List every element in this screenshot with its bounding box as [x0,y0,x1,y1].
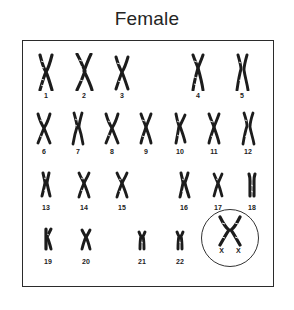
chromosome-pair-16: 16 [171,165,197,212]
chromosome-label: 12 [235,147,261,156]
sex-chromosome-group: X X [201,209,263,271]
chromosome-label: 14 [71,203,97,212]
chromosome-icon [201,109,227,147]
chromosome-pair-17: 17 [205,165,231,212]
chromosome-pair-18: 18 [239,165,265,212]
chromosome-icon [65,109,91,147]
chromosome-icon [167,219,193,257]
karyotype-frame: 1 2 [22,40,274,287]
chromosome-label: 5 [229,91,255,100]
chromosome-icon [71,165,97,203]
sex-chromosome-icon [214,215,246,247]
chromosome-icon [33,53,59,91]
chromosome-label: 1 [33,91,59,100]
chromosome-icon [239,165,265,203]
chromosome-pair-21: 21 [129,219,155,266]
chromosome-icon [205,165,231,203]
chromosome-pair-10: 10 [167,109,193,156]
chromosome-icon [31,109,57,147]
chromosome-label: 10 [167,147,193,156]
chromosome-label: 7 [65,147,91,156]
chromosome-pair-7: 7 [65,109,91,156]
chromosome-pair-9: 9 [133,109,159,156]
chromosome-icon [133,109,159,147]
chromosome-icon [171,165,197,203]
chromosome-row-1: 1 2 [23,53,273,105]
chromosome-icon [235,109,261,147]
chromosome-label: 9 [133,147,159,156]
chromosome-icon [129,219,155,257]
chromosome-pair-20: 20 [73,219,99,266]
chromosome-pair-11: 11 [201,109,227,156]
chromosome-row-4: 19 20 21 [23,219,273,271]
chromosome-pair-2: 2 [71,53,97,100]
chromosome-icon [185,53,211,91]
chromosome-pair-6: 6 [31,109,57,156]
chromosome-icon [33,165,59,203]
chromosome-pair-4: 4 [185,53,211,100]
chromosome-label: 16 [171,203,197,212]
chromosome-icon [109,53,135,91]
chromosome-label: 2 [71,91,97,100]
sex-chromosome-labels: X X [201,247,259,254]
chromosome-icon [109,165,135,203]
chromosome-pair-13: 13 [33,165,59,212]
chromosome-pair-1: 1 [33,53,59,100]
chromosome-label: 19 [35,257,61,266]
chromosome-label: 3 [109,91,135,100]
chromosome-pair-12: 12 [235,109,261,156]
chromosome-pair-22: 22 [167,219,193,266]
chromosome-label: 13 [33,203,59,212]
chromosome-label: 15 [109,203,135,212]
chromosome-icon [73,219,99,257]
chromosome-pair-19: 19 [35,219,61,266]
chromosome-pair-15: 15 [109,165,135,212]
chromosome-icon [71,53,97,91]
chromosome-label: 11 [201,147,227,156]
chromosome-pair-5: 5 [229,53,255,100]
karyotype-figure: Female 1 [0,0,294,310]
chromosome-icon [35,219,61,257]
chromosome-label: 20 [73,257,99,266]
chromosome-label: 22 [167,257,193,266]
chromosome-pair-3: 3 [109,53,135,100]
sex-chromosome-label-x1: X [219,247,224,254]
chromosome-pair-8: 8 [99,109,125,156]
chromosome-pair-14: 14 [71,165,97,212]
chromosome-row-2: 6 7 [23,109,273,161]
page-title: Female [0,8,294,30]
chromosome-label: 6 [31,147,57,156]
chromosome-label: 21 [129,257,155,266]
chromosome-label: 4 [185,91,211,100]
chromosome-icon [99,109,125,147]
chromosome-label: 8 [99,147,125,156]
chromosome-icon [229,53,255,91]
sex-chromosome-label-x2: X [236,247,241,254]
chromosome-icon [167,109,193,147]
